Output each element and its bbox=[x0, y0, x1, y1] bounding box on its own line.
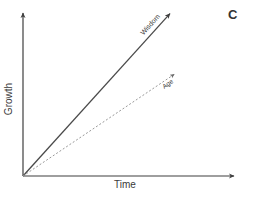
growth-time-chart: Growth Time Wisdom Age C bbox=[0, 0, 253, 199]
wisdom-line bbox=[23, 14, 170, 176]
age-line bbox=[23, 74, 174, 176]
x-axis-label: Time bbox=[80, 180, 170, 190]
y-axis-label: Growth bbox=[4, 77, 14, 121]
panel-letter-label: C bbox=[228, 8, 237, 21]
chart-canvas bbox=[0, 0, 253, 199]
